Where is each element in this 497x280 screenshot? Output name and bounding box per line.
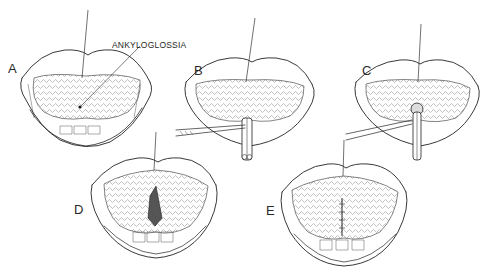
panel-label-e: E [266,203,275,218]
panel-c-drawing [346,24,479,160]
ankyloglossia-callout-label: ANKYLOGLOSSIA [112,40,186,50]
panel-a-drawing [21,10,152,147]
panel-b-drawing [176,18,314,160]
illustration-drawing [0,0,497,280]
panel-label-d: D [74,202,83,217]
panel-label-a: A [8,61,17,76]
panel-e-drawing [281,140,407,266]
surgical-illustration: ANKYLOGLOSSIA A B C D E [0,0,497,280]
panel-label-c: C [362,63,371,78]
panel-label-b: B [194,63,203,78]
panel-d-drawing [91,132,217,258]
